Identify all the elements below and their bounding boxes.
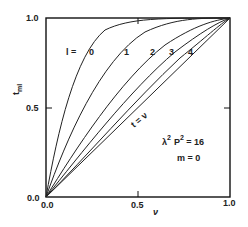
param-lambda-p: λ2P2 = 16 (162, 134, 204, 147)
curve-label-4: 4 (188, 47, 193, 57)
y-axis-label: tml (11, 84, 23, 95)
curve-label-2: 2 (150, 47, 155, 57)
chart: 1.0 0.5 0.0 0.0 0.5 1.0 tml ν l = 0 1 2 … (0, 0, 248, 227)
curve-label-prefix: l = (66, 47, 76, 57)
curve-label-0: 0 (89, 47, 94, 57)
x-tick-label-1: 1.0 (223, 198, 236, 208)
x-tick-label-0: 0.0 (41, 200, 54, 210)
y-tick-label-1: 1.0 (26, 13, 39, 23)
y-tick-label-0: 0.0 (27, 193, 40, 203)
y-tick-label-05: 0.5 (26, 103, 39, 113)
x-tick-label-05: 0.5 (131, 200, 144, 210)
curve-diagonal (46, 18, 230, 197)
curve-label-3: 3 (169, 47, 174, 57)
curve-label-1: 1 (124, 47, 129, 57)
x-axis-label: ν (153, 207, 158, 217)
param-m: m = 0 (177, 153, 200, 163)
